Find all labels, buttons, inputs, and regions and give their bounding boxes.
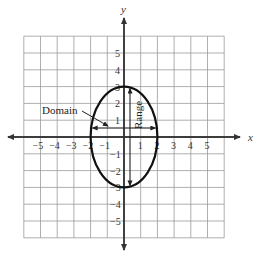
y-axis-label: y (120, 3, 126, 15)
x-tick-label: −3 (66, 140, 77, 151)
y-tick-label: 1 (115, 115, 120, 126)
y-tick-label: −4 (110, 199, 121, 210)
x-tick-label: 4 (188, 140, 193, 151)
x-axis-label: x (247, 131, 253, 143)
x-tick-label: −1 (99, 140, 110, 151)
y-tick-label: 5 (115, 48, 120, 59)
x-tick-label: 3 (171, 140, 176, 151)
domain-label: Domain (42, 104, 78, 116)
y-tick-label: −5 (110, 216, 121, 227)
y-tick-label: 4 (115, 65, 120, 76)
x-tick-label: 1 (138, 140, 143, 151)
x-tick-label: −4 (49, 140, 60, 151)
x-tick-label: −5 (33, 140, 44, 151)
range-label: Range (132, 101, 144, 129)
x-tick-label: 5 (205, 140, 210, 151)
y-tick-label: −2 (110, 166, 121, 177)
y-tick-label: −1 (110, 149, 121, 160)
y-tick-label: 2 (115, 98, 120, 109)
coordinate-plane: xy −5−4−3−2−11234554321−1−2−3−4−5 Domain… (0, 0, 260, 263)
